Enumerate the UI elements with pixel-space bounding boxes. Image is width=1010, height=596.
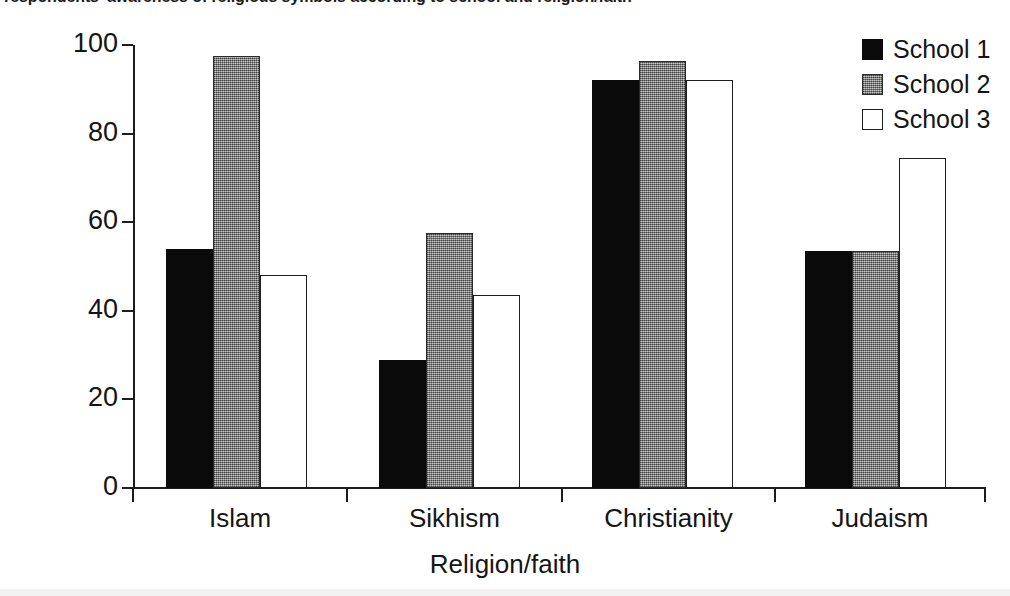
y-axis-tick bbox=[122, 310, 133, 312]
x-axis-tick bbox=[132, 489, 134, 502]
y-axis-tick-label: 80 bbox=[0, 119, 118, 146]
bar-islam-school-2 bbox=[213, 56, 260, 488]
bar-christianity-school-1 bbox=[592, 80, 639, 488]
y-axis-line bbox=[133, 45, 135, 489]
x-axis-tick bbox=[984, 489, 986, 502]
legend-label-school-1: School 1 bbox=[893, 37, 990, 62]
bar-chart-figure: 020406080100IslamSikhismChristianityJuda… bbox=[0, 0, 1010, 596]
legend-label-school-2: School 2 bbox=[893, 72, 990, 97]
x-axis-tick bbox=[561, 489, 563, 502]
y-axis-tick-label: 0 bbox=[0, 473, 118, 500]
chart-legend: School 1 School 2 School 3 bbox=[862, 32, 1010, 137]
bar-sikhism-school-2 bbox=[426, 233, 473, 488]
bar-christianity-school-3 bbox=[686, 80, 733, 488]
y-axis-tick bbox=[122, 398, 133, 400]
bar-judaism-school-2 bbox=[852, 251, 899, 488]
legend-item: School 1 bbox=[862, 32, 1010, 67]
y-axis-tick bbox=[122, 133, 133, 135]
y-axis-tick-label: 20 bbox=[0, 384, 118, 411]
scan-bottom-edge bbox=[0, 589, 1010, 596]
legend-item: School 3 bbox=[862, 102, 1010, 137]
y-axis-tick-label: 40 bbox=[0, 296, 118, 323]
x-axis-category-label: Sikhism bbox=[347, 505, 562, 531]
bar-sikhism-school-3 bbox=[473, 295, 520, 488]
bar-islam-school-3 bbox=[260, 275, 307, 488]
y-axis-tick-label: 60 bbox=[0, 207, 118, 234]
legend-swatch-school-3-icon bbox=[862, 109, 883, 130]
x-axis-title: Religion/faith bbox=[0, 549, 1010, 580]
bar-judaism-school-1 bbox=[805, 251, 852, 488]
bar-judaism-school-3 bbox=[899, 158, 946, 488]
x-axis-tick bbox=[774, 489, 776, 502]
x-axis-category-label: Christianity bbox=[562, 505, 775, 531]
legend-swatch-school-1-icon bbox=[862, 39, 883, 60]
y-axis-tick bbox=[122, 221, 133, 223]
legend-item: School 2 bbox=[862, 67, 1010, 102]
bar-sikhism-school-1 bbox=[379, 360, 426, 488]
bar-christianity-school-2 bbox=[639, 61, 686, 488]
legend-swatch-school-2-icon bbox=[862, 74, 883, 95]
legend-label-school-3: School 3 bbox=[893, 107, 990, 132]
x-axis-category-label: Islam bbox=[133, 505, 347, 531]
y-axis-tick bbox=[122, 44, 133, 46]
x-axis-tick bbox=[346, 489, 348, 502]
y-axis-tick-label: 100 bbox=[0, 30, 118, 57]
bar-islam-school-1 bbox=[166, 249, 213, 488]
x-axis-category-label: Judaism bbox=[775, 505, 985, 531]
